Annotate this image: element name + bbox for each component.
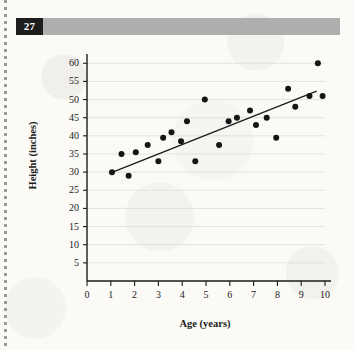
data-point xyxy=(202,97,208,103)
scatter-chart: Height (inches) Age (years) 510152025303… xyxy=(0,0,355,350)
data-point xyxy=(155,158,161,164)
data-point xyxy=(133,149,139,155)
data-point xyxy=(160,135,166,141)
data-point xyxy=(109,169,115,175)
data-point xyxy=(119,151,125,157)
data-point xyxy=(247,107,253,113)
x-axis-ticks xyxy=(87,281,325,286)
data-point xyxy=(126,173,132,179)
data-point xyxy=(226,118,232,124)
data-point xyxy=(273,135,279,141)
data-point xyxy=(216,142,222,148)
data-point xyxy=(315,60,321,66)
data-point xyxy=(145,142,151,148)
data-point xyxy=(307,93,313,99)
plot-canvas xyxy=(0,0,355,350)
data-point xyxy=(234,115,240,121)
data-point xyxy=(292,104,298,110)
page-edge-perforation xyxy=(4,0,7,350)
data-point xyxy=(285,86,291,92)
data-point xyxy=(320,93,326,99)
gridlines xyxy=(87,63,325,263)
data-point xyxy=(192,158,198,164)
data-point xyxy=(178,138,184,144)
data-point xyxy=(253,122,259,128)
trend-line xyxy=(111,91,317,173)
data-point xyxy=(184,118,190,124)
data-point xyxy=(264,115,270,121)
data-point xyxy=(168,129,174,135)
